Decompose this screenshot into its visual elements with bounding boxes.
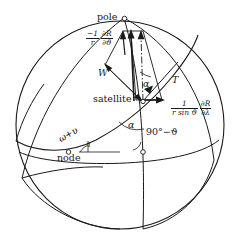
meridian-right [124,18,214,160]
label-pole: pole [97,12,117,22]
formula-theta-partial-den: ∂ϑ [101,39,112,47]
auxiliary-lower-left-arc [22,167,103,178]
orbit-lower-arc [16,84,44,141]
formula-lambda-den: r sin ϑ [171,109,198,117]
meridian-left-lower [22,178,120,229]
angle-arc-right-angle [133,142,141,150]
formula-theta-denom: r [90,39,96,47]
formula-dR-dlambda: 1 r sin ϑ ∂R ∂λ [171,100,211,117]
label-colatitude: 90°−ϑ [146,127,178,137]
formula-lambda-partial-num: ∂R [200,100,212,108]
label-W: W [98,68,108,78]
formula-theta-sign: −1 [86,30,99,38]
label-alpha-lower: α [128,120,134,130]
formula-theta-partial-num: ∂R [101,30,113,38]
vector-dR-dtheta-secondary [120,30,126,55]
label-alpha-upper: α [143,79,149,89]
label-inclination: i [88,141,91,149]
formula-dR-dtheta: −1 r ∂R ∂ϑ [86,30,113,47]
angle-arc-alpha-upper [140,72,151,77]
diagram-canvas [0,0,246,251]
spherical-geometry-figure: pole satellite node W T α α i 90°−ϑ ω+υ … [0,0,246,251]
formula-lambda-partial-den: ∂λ [200,109,211,117]
formula-lambda-num: 1 [181,100,188,108]
equator-crossing-marker [141,150,146,155]
label-T: T [172,75,178,85]
meridian-right-lower [143,160,214,229]
label-satellite: satellite [93,94,132,104]
satellite-marker [141,99,145,103]
label-node: node [57,153,81,163]
label-argument-of-latitude: ω+υ [58,128,78,147]
pole-marker [122,16,127,21]
